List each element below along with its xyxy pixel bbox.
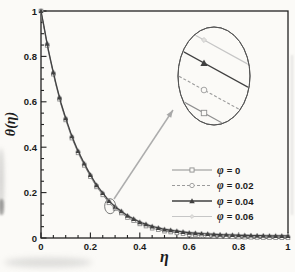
chart-canvas: 00.20.40.60.8100.20.40.60.81φ= 0φ= 0.02φ… — [0, 0, 295, 272]
y-tick-label: 0.8 — [24, 51, 37, 62]
y-tick-label: 0.6 — [24, 96, 37, 107]
legend-label-1: φ= 0.02 — [217, 179, 253, 192]
legend-label-3: φ= 0.06 — [217, 210, 253, 223]
x-axis-title: η — [41, 249, 288, 265]
y-axis-title: θ(η) — [4, 86, 18, 162]
marker-circle — [190, 183, 194, 187]
y-tick-label: 0.4 — [24, 142, 38, 153]
y-tick-label: 0.2 — [24, 187, 37, 198]
y-tick-label: 1 — [32, 6, 38, 17]
legend-label-2: φ= 0.04 — [217, 195, 254, 208]
legend-label-0: φ= 0 — [217, 164, 240, 177]
figure-plot-theta-eta: 00.20.40.60.8100.20.40.60.81φ= 0φ= 0.02φ… — [0, 0, 295, 272]
y-tick-label: 0 — [32, 233, 37, 244]
marker-circle — [201, 87, 207, 93]
marker-square — [190, 168, 194, 172]
marker-square — [201, 110, 206, 115]
marker-diamond — [190, 215, 194, 219]
inset-arrow-head — [167, 110, 173, 118]
inset-arrow-line — [114, 110, 173, 199]
